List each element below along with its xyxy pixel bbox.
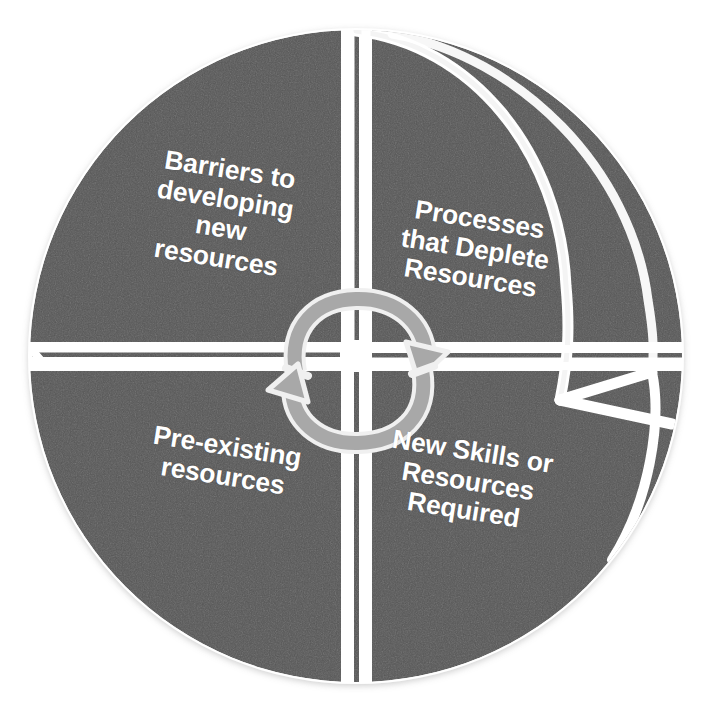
quadrant-group: [30, 30, 682, 682]
diagram-canvas: Barriers to developing new resources Pro…: [0, 0, 714, 716]
cycle-wheel-graphic: [0, 0, 714, 716]
